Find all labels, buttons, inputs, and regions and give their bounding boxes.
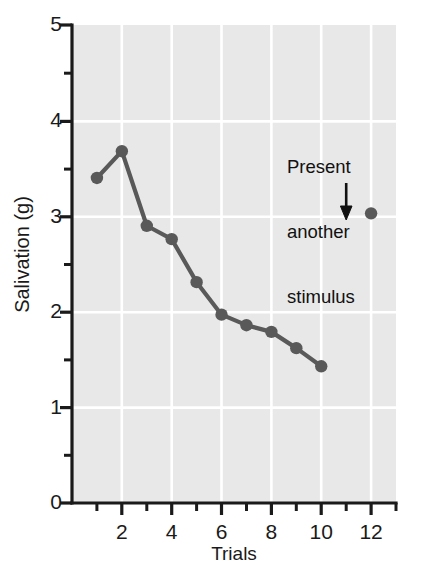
x-tick-label-6: 6 bbox=[202, 521, 242, 542]
annotation-present-another-stimulus: Present another stimulus bbox=[287, 113, 355, 351]
annotation-line-2: another bbox=[287, 221, 355, 243]
x-tick-label-4: 4 bbox=[152, 521, 192, 542]
x-axis-title: Trials bbox=[72, 543, 396, 565]
annotation-line-3: stimulus bbox=[287, 286, 355, 308]
x-tick-label-2: 2 bbox=[102, 521, 142, 542]
chart-figure: 5 4 3 2 1 0 2 4 6 8 10 12 Salivation (g)… bbox=[0, 0, 424, 577]
x-tick-label-10: 10 bbox=[301, 521, 341, 542]
x-tick-label-8: 8 bbox=[251, 521, 291, 542]
annotation-line-1: Present bbox=[287, 156, 355, 178]
x-tick-label-12: 12 bbox=[351, 521, 391, 542]
y-axis-title: Salivation (g) bbox=[11, 155, 34, 355]
x-axis-tick-labels: 2 4 6 8 10 12 bbox=[0, 0, 424, 577]
